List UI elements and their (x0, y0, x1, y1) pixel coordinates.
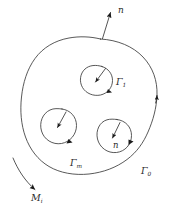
exterior-point-arrow (13, 158, 35, 190)
label-outer-boundary: Γ0 (141, 166, 151, 178)
label-hole-left: Γm (70, 158, 82, 170)
label-hole-left-subscript: m (77, 163, 83, 169)
label-hole-bottom-normal: n (113, 141, 118, 150)
label-outer-normal: n (118, 6, 124, 15)
label-outer-boundary-subscript: 0 (148, 171, 152, 177)
label-hole-top: Γ1 (116, 77, 126, 89)
hole-bottom-normal-arrow (113, 123, 121, 139)
label-hole-top-subscript: 1 (123, 82, 127, 88)
outer-normal-arrow (103, 13, 111, 39)
label-exterior-point-subscript: i (41, 198, 43, 204)
label-hole-bottom-normal-text: n (113, 140, 118, 150)
hole-top-normal-arrow (96, 69, 106, 83)
label-outer-normal-text: n (118, 5, 124, 15)
label-hole-left-symbol: Γ (70, 157, 77, 168)
label-exterior-point: Mi (31, 193, 43, 205)
hole-left-normal-arrow (58, 112, 67, 128)
label-hole-top-symbol: Γ (116, 76, 123, 87)
label-outer-boundary-symbol: Γ (141, 165, 148, 176)
label-exterior-point-symbol: M (31, 192, 41, 203)
outer-boundary-contour (21, 37, 157, 175)
figure-container: n Γ1 n Γm Γ0 Mi (0, 0, 172, 219)
figure-canvas (0, 0, 172, 219)
